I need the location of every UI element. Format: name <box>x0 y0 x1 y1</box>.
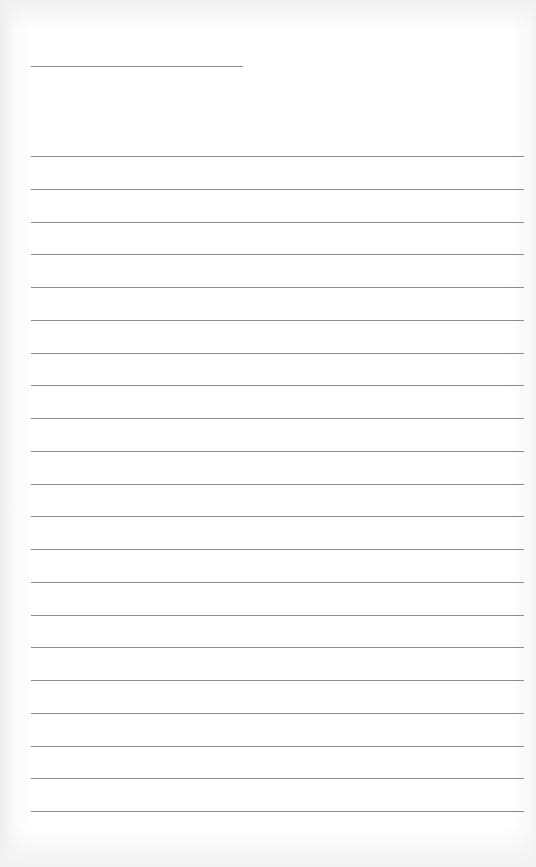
header-name-line <box>31 66 243 67</box>
ruled-line <box>31 320 524 321</box>
ruled-line <box>31 680 524 681</box>
ruled-line <box>31 713 524 714</box>
ruled-line <box>31 189 524 190</box>
ruled-line <box>31 385 524 386</box>
ruled-line <box>31 647 524 648</box>
ruled-line <box>31 615 524 616</box>
ruled-line <box>31 811 524 812</box>
ruled-line <box>31 484 524 485</box>
ruled-line <box>31 778 524 779</box>
ruled-line <box>31 254 524 255</box>
ruled-line <box>31 516 524 517</box>
ruled-line <box>31 418 524 419</box>
ruled-line <box>31 287 524 288</box>
ruled-line <box>31 746 524 747</box>
ruled-line <box>31 549 524 550</box>
lined-paper-page <box>0 0 536 867</box>
ruled-line <box>31 451 524 452</box>
ruled-line <box>31 156 524 157</box>
ruled-line <box>31 353 524 354</box>
ruled-line <box>31 222 524 223</box>
ruled-line <box>31 582 524 583</box>
